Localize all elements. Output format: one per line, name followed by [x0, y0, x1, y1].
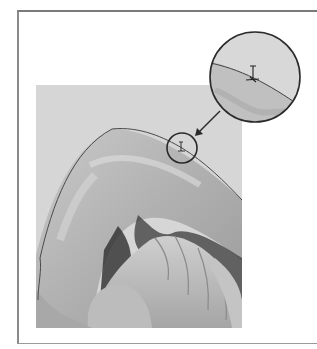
figure-illustration: [0, 0, 317, 349]
statue-photo: [36, 85, 242, 328]
